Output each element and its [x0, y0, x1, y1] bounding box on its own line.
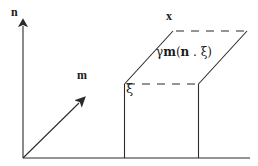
slip-direction-label: m: [77, 69, 87, 81]
shear-expression-label: γm(n . ξ): [156, 46, 212, 58]
shear-expression-n: n: [181, 45, 190, 59]
normal-axis-label: n: [11, 6, 18, 18]
shear-expression-close-paren: ): [207, 45, 212, 59]
shear-expression-m: m: [163, 45, 176, 59]
reference-vector-label: ξ: [126, 82, 133, 95]
shear-expression-dot: .: [189, 45, 200, 59]
displaced-point-label: x: [166, 10, 172, 22]
shear-diagram-figure: n m x ξ γm(n . ξ): [0, 0, 258, 166]
slip-direction-arrow: [23, 103, 79, 158]
